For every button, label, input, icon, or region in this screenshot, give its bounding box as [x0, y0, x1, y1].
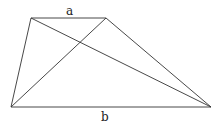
trapezoid-diagram: a b [0, 0, 220, 123]
left-leg [11, 18, 31, 107]
label-b: b [101, 110, 109, 123]
label-a: a [66, 4, 73, 18]
